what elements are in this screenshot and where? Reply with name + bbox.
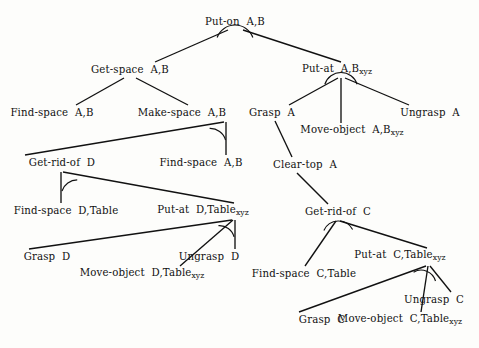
tree-node-clear-top-a: Clear-top A (273, 160, 337, 170)
subscript-label: xyz (191, 271, 204, 280)
tree-node-ungrasp-c: Ungrasp C (404, 295, 464, 305)
subscript-label: xyz (433, 253, 446, 262)
tree-node-put-at-d-table-xyz: Put-at D,Tablexyz (157, 205, 249, 216)
subscript-label: xyz (391, 128, 404, 137)
tree-node-put-at-c-table-xyz: Put-at C,Tablexyz (354, 250, 445, 261)
tree-node-get-rid-of-d: Get-rid-of D (29, 158, 95, 168)
tree-node-layer: Put-on A,BGet-space A,BPut-at A,BxyzFind… (0, 0, 479, 348)
tree-node-find-space-ab-left: Find-space A,B (10, 108, 93, 118)
tree-node-move-object-c-table-xyz: Move-object C,Tablexyz (338, 314, 462, 325)
tree-node-get-space-ab: Get-space A,B (91, 65, 169, 75)
tree-node-get-rid-of-c: Get-rid-of C (305, 207, 371, 217)
tree-node-find-space-d-table: Find-space D,Table (14, 206, 119, 216)
tree-node-find-space-ab-right: Find-space A,B (159, 158, 242, 168)
tree-node-move-object-ab-xyz: Move-object A,Bxyz (300, 125, 403, 136)
tree-node-put-at-ab-xyz: Put-at A,Bxyz (302, 64, 372, 75)
tree-node-put-on-ab: Put-on A,B (205, 17, 265, 27)
tree-node-ungrasp-a: Ungrasp A (400, 108, 460, 118)
subscript-label: xyz (236, 208, 249, 217)
subscript-label: xyz (359, 67, 372, 76)
subscript-label: xyz (449, 317, 462, 326)
tree-node-grasp-a: Grasp A (249, 108, 295, 118)
tree-node-move-object-d-table-xyz: Move-object D,Tablexyz (80, 268, 205, 279)
tree-node-grasp-d: Grasp D (24, 252, 71, 262)
tree-node-ungrasp-d: Ungrasp D (179, 252, 240, 262)
task-decomposition-tree-figure: Put-on A,BGet-space A,BPut-at A,BxyzFind… (0, 0, 479, 348)
tree-node-make-space-ab: Make-space A,B (138, 108, 227, 118)
tree-node-find-space-c-table: Find-space C,Table (252, 269, 356, 279)
